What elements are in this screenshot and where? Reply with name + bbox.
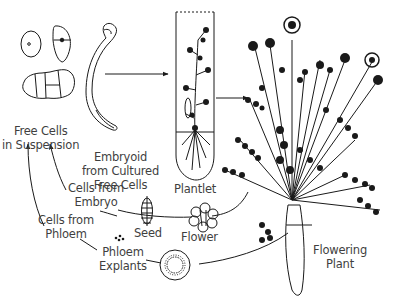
phloem-explant-illustration <box>160 250 190 280</box>
free-cells-illustration <box>21 26 75 98</box>
label-cells-from-embryo: Cells from Embryo <box>68 181 124 209</box>
label-free-cells: Free Cells in Suspension <box>2 124 79 152</box>
phloem-fragment-icon <box>115 235 125 242</box>
label-phloem-explants: Phloem Explants <box>99 245 147 273</box>
embryoid-illustration <box>86 23 117 130</box>
label-flower: Flower <box>181 230 218 244</box>
plantlet-tube-illustration <box>176 12 214 180</box>
seed-illustration <box>141 196 153 226</box>
label-cells-from-phloem: Cells from Phloem <box>38 213 94 241</box>
label-seed: Seed <box>134 226 162 240</box>
tissue-culture-diagram: Free Cells in Suspension Embryoid from C… <box>0 0 396 300</box>
flower-illustration <box>189 203 218 232</box>
label-plantlet: Plantlet <box>174 182 216 196</box>
label-flowering-plant: Flowering Plant <box>313 243 367 271</box>
